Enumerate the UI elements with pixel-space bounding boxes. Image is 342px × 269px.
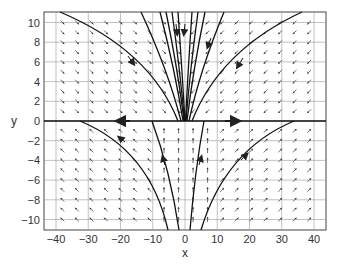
y-tick-label: −2 — [27, 135, 40, 147]
y-tick-label: 6 — [34, 56, 40, 68]
y-tick-label: 10 — [28, 17, 40, 29]
x-axis-label: x — [182, 246, 188, 260]
y-tick-label: −4 — [27, 154, 40, 166]
y-tick-label: −10 — [21, 214, 40, 226]
y-tick-label: −6 — [27, 174, 40, 186]
y-axis-ticks: 1086420−2−4−6−8−10 — [21, 17, 40, 226]
phase-portrait-chart: −40−30−20−10010203040 1086420−2−4−6−8−10… — [0, 0, 342, 269]
x-tick-label: 30 — [276, 233, 288, 245]
y-tick-label: 0 — [34, 115, 40, 127]
x-tick-label: 10 — [211, 233, 223, 245]
y-tick-label: 2 — [34, 95, 40, 107]
x-tick-label: −10 — [143, 233, 162, 245]
y-tick-label: 8 — [34, 36, 40, 48]
x-tick-label: 20 — [243, 233, 255, 245]
x-tick-label: −20 — [111, 233, 130, 245]
y-tick-label: −8 — [27, 194, 40, 206]
x-tick-label: −30 — [79, 233, 98, 245]
x-tick-label: −40 — [47, 233, 66, 245]
y-tick-label: 4 — [34, 76, 40, 88]
x-tick-label: 0 — [182, 233, 188, 245]
y-axis-label: y — [11, 114, 17, 128]
x-axis-ticks: −40−30−20−10010203040 — [47, 233, 320, 245]
x-tick-label: 40 — [308, 233, 320, 245]
